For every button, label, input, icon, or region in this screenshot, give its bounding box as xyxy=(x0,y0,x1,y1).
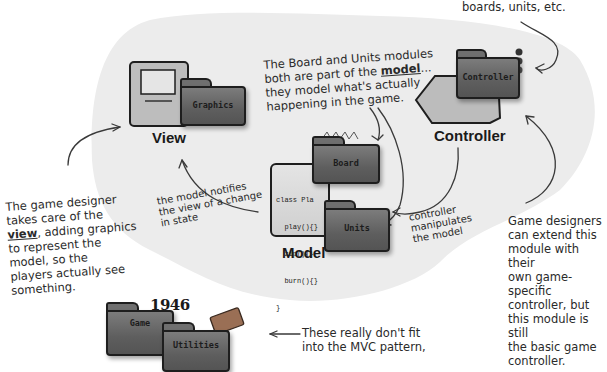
board-module: Board xyxy=(312,136,380,184)
units-module-label: Units xyxy=(324,223,390,233)
controller-module: Controller xyxy=(456,49,520,99)
note-controller-extend: Game designers can extend this module wi… xyxy=(508,214,607,368)
note-model-modules: The Board and Units modules both are par… xyxy=(262,32,436,114)
board-module-label: Board xyxy=(312,158,380,168)
utilities-module-label: Utilities xyxy=(162,340,230,350)
graphics-module: Graphics xyxy=(180,78,246,126)
model-label: Model xyxy=(282,244,325,261)
game-year-badge: 1946 xyxy=(150,296,190,314)
utilities-module: Utilities xyxy=(162,322,230,372)
note-view-designer: The game designer takes care of the view… xyxy=(4,177,141,298)
controller-module-label: Controller xyxy=(456,72,520,82)
units-module: Units xyxy=(324,200,390,252)
note-top-right: boards, units, etc. xyxy=(462,0,566,14)
controller-label: Controller xyxy=(434,127,506,144)
graphics-module-label: Graphics xyxy=(180,100,246,110)
note-outside-mvc: These really don't fit into the MVC patt… xyxy=(302,326,426,354)
view-label: View xyxy=(152,129,186,146)
